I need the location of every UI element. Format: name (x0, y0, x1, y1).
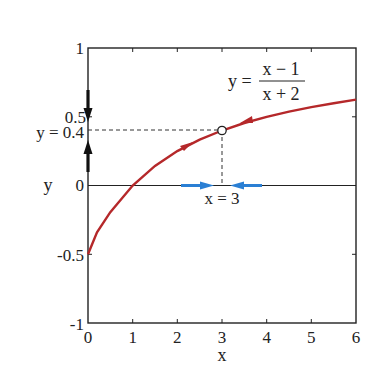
fixed-point-marker (218, 126, 226, 134)
svg-text:6: 6 (352, 328, 361, 347)
svg-text:2: 2 (173, 328, 182, 347)
chart: 0 1 2 3 4 5 6 1 0.5 0 -0.5 -1 y = 0.4 x … (0, 0, 379, 378)
svg-text:4: 4 (262, 328, 271, 347)
svg-text:1: 1 (76, 39, 85, 58)
svg-text:-1: -1 (70, 315, 84, 334)
svg-text:y =: y = (228, 71, 252, 91)
svg-text:-0.5: -0.5 (57, 246, 84, 265)
svg-text:1: 1 (128, 328, 137, 347)
equation-label: y = x − 1 x + 2 (228, 59, 305, 104)
arrow-up-icon (84, 140, 93, 154)
y-axis-label: y (44, 175, 53, 195)
svg-text:5: 5 (307, 328, 316, 347)
svg-text:0: 0 (84, 328, 93, 347)
svg-text:0: 0 (76, 176, 85, 195)
curve-arrow-icon (240, 116, 253, 123)
curve-line (88, 100, 356, 255)
svg-text:x − 1: x − 1 (262, 59, 299, 79)
x-fixed-label: x = 3 (204, 189, 239, 208)
y-tick-labels: 1 0.5 0 -0.5 -1 (57, 39, 86, 334)
x-axis-label: x (218, 345, 227, 365)
svg-text:x + 2: x + 2 (262, 84, 299, 104)
y-fixed-label: y = 0.4 (36, 123, 84, 142)
